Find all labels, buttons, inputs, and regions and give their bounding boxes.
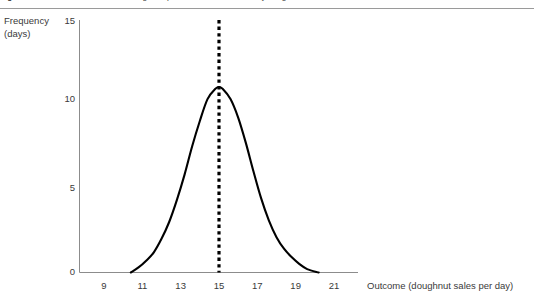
plot-area (0, 0, 534, 299)
figure-container: Figure 7.3 A normal distribution showing… (0, 0, 534, 299)
distribution-curve (131, 87, 319, 272)
